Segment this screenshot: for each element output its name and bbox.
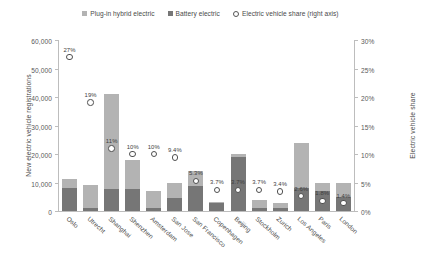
- ev-share-value-label: 1.4%: [328, 193, 358, 199]
- bar-segment-plugin-hybrid[interactable]: [146, 191, 161, 208]
- stacked-bar[interactable]: [209, 202, 224, 211]
- y-axis-right-tick-label: 5%: [361, 181, 401, 188]
- legend-item-plugin-hybrid[interactable]: Plug-in hybrid electric: [82, 10, 154, 17]
- bar-segment-battery-electric[interactable]: [62, 188, 77, 211]
- ev-registrations-chart: Plug-in hybrid electric Battery electric…: [0, 0, 421, 270]
- ev-share-marker[interactable]: [193, 178, 200, 185]
- y-axis-right-tick-mark: [355, 40, 358, 41]
- ev-share-value-label: 19%: [76, 92, 106, 98]
- x-axis-category: Copenhagen: [209, 213, 224, 269]
- y-axis-left-tick-mark: [55, 183, 58, 184]
- x-axis-category: San Jose: [167, 213, 182, 269]
- ev-share-marker[interactable]: [129, 151, 136, 158]
- bar-segment-battery-electric[interactable]: [146, 208, 161, 211]
- y-axis-right-tick-label: 20%: [361, 95, 401, 102]
- stacked-bar[interactable]: [62, 179, 77, 211]
- x-axis-category-label: Beijing: [233, 215, 252, 234]
- bar-group[interactable]: 10%: [146, 40, 161, 211]
- y-axis-right-tick-mark: [355, 126, 358, 127]
- y-axis-right-tick-mark: [355, 211, 358, 212]
- bar-segment-battery-electric[interactable]: [273, 208, 288, 211]
- bar-segment-battery-electric[interactable]: [188, 186, 203, 211]
- x-axis-category: Beijing: [231, 213, 246, 269]
- stacked-bar[interactable]: [294, 143, 309, 211]
- bar-segment-plugin-hybrid[interactable]: [167, 183, 182, 198]
- bar-group[interactable]: 11%: [104, 40, 119, 211]
- bar-segment-battery-electric[interactable]: [104, 189, 119, 211]
- ev-share-marker[interactable]: [66, 54, 73, 61]
- bar-segment-plugin-hybrid[interactable]: [62, 179, 77, 187]
- legend-label-battery-electric: Battery electric: [176, 10, 220, 17]
- bar-group[interactable]: 19%: [83, 40, 98, 211]
- legend-circle-marker-icon-ev-share: [233, 11, 239, 17]
- x-axis-category: Shanghai: [104, 213, 119, 269]
- y-axis-right-tick-label: 0%: [361, 209, 401, 216]
- x-axis-category-label: Zurich: [275, 215, 293, 232]
- y-axis-right-title: Electric vehicle share: [409, 51, 416, 201]
- y-axis-left-tick-label: 40,000: [0, 95, 52, 102]
- x-axis-category: Amsterdam: [146, 213, 161, 269]
- stacked-bar[interactable]: [125, 160, 140, 211]
- stacked-bar[interactable]: [252, 200, 267, 211]
- y-axis-right-tick-mark: [355, 69, 358, 70]
- x-axis-category: London: [336, 213, 351, 269]
- ev-share-marker[interactable]: [108, 145, 115, 152]
- ev-share-value-label: 27%: [55, 47, 85, 53]
- bar-segment-battery-electric[interactable]: [209, 203, 224, 211]
- stacked-bar[interactable]: [83, 185, 98, 211]
- y-axis-right-tick-label: 15%: [361, 124, 401, 131]
- legend-item-battery-electric[interactable]: Battery electric: [168, 10, 220, 17]
- bar-segment-battery-electric[interactable]: [125, 189, 140, 211]
- bar-segment-battery-electric[interactable]: [83, 208, 98, 211]
- ev-share-marker[interactable]: [87, 99, 94, 106]
- bar-segment-plugin-hybrid[interactable]: [294, 143, 309, 189]
- ev-share-marker[interactable]: [340, 200, 347, 207]
- y-axis-left-tick-label: 50,000: [0, 67, 52, 74]
- legend-swatch-icon-plugin-hybrid: [82, 11, 87, 16]
- legend-item-ev-share[interactable]: Electric vehicle share (right axis): [233, 10, 339, 17]
- ev-share-value-label: 5.3%: [181, 170, 211, 176]
- y-axis-left-tick-mark: [55, 69, 58, 70]
- ev-share-marker[interactable]: [214, 187, 221, 194]
- stacked-bar[interactable]: [104, 94, 119, 211]
- y-axis-left-tick-label: 10,000: [0, 181, 52, 188]
- ev-share-marker[interactable]: [172, 154, 179, 161]
- y-axis-right-tick-mark: [355, 97, 358, 98]
- stacked-bar[interactable]: [273, 203, 288, 211]
- y-axis-left-tick-mark: [55, 126, 58, 127]
- x-axis-category: Utrecht: [83, 213, 98, 269]
- bar-segment-plugin-hybrid[interactable]: [83, 185, 98, 209]
- x-axis-category: Los Angeles: [294, 213, 309, 269]
- x-axis-category: Shenzhen: [125, 213, 140, 269]
- bar-group[interactable]: 10%: [125, 40, 140, 211]
- x-axis-category: Oslo: [62, 213, 77, 269]
- y-axis-right-tick-label: 10%: [361, 152, 401, 159]
- bar-segment-plugin-hybrid[interactable]: [252, 200, 267, 208]
- bar-segment-battery-electric[interactable]: [167, 198, 182, 211]
- legend-label-ev-share: Electric vehicle share (right axis): [242, 10, 339, 17]
- bar-group[interactable]: 1.8%: [315, 40, 330, 211]
- ev-share-marker[interactable]: [277, 188, 284, 195]
- y-axis-left-tick-label: 0: [0, 209, 52, 216]
- bar-group[interactable]: 9.4%: [167, 40, 182, 211]
- ev-share-marker[interactable]: [151, 151, 158, 158]
- bar-group[interactable]: 2.6%: [294, 40, 309, 211]
- x-axis-category-label: Paris: [318, 215, 334, 230]
- ev-share-marker[interactable]: [319, 198, 326, 205]
- bar-group[interactable]: 1.4%: [336, 40, 351, 211]
- stacked-bar[interactable]: [146, 191, 161, 211]
- ev-share-marker[interactable]: [256, 187, 263, 194]
- legend-label-plugin-hybrid: Plug-in hybrid electric: [90, 10, 154, 17]
- y-axis-left-tick-label: 30,000: [0, 124, 52, 131]
- x-axis-category: Paris: [315, 213, 330, 269]
- plot-area: 010,00020,00030,00040,00050,00060,000 0%…: [58, 40, 355, 212]
- y-axis-right-tick-label: 25%: [361, 67, 401, 74]
- stacked-bar[interactable]: [167, 183, 182, 211]
- bar-segment-battery-electric[interactable]: [252, 208, 267, 211]
- bar-group[interactable]: 27%: [62, 40, 77, 211]
- bar-segment-plugin-hybrid[interactable]: [125, 160, 140, 189]
- chart-legend: Plug-in hybrid electric Battery electric…: [0, 10, 421, 17]
- ev-share-value-label: 9.4%: [160, 147, 190, 153]
- y-axis-left-tick-label: 60,000: [0, 38, 52, 45]
- y-axis-left-tick-mark: [55, 154, 58, 155]
